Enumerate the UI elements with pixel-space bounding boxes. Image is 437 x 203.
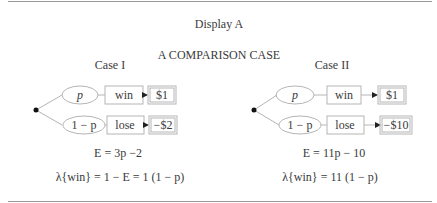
case-1-outcome-lose: lose	[115, 118, 134, 132]
case-2-outcome-win: win	[335, 88, 353, 102]
case-1-outcome-win: win	[115, 88, 133, 102]
case-2-payoff-lose: −$10	[384, 118, 409, 132]
case-1-prob-lose: 1 − p	[72, 118, 97, 132]
case-1-prob-win: p	[77, 88, 83, 102]
case-2-payoff-win: $1	[386, 88, 398, 102]
case-2-outcome-lose: lose	[335, 118, 354, 132]
case-2-expectation: E = 11p − 10	[303, 146, 365, 160]
case-1-root-node	[34, 108, 39, 113]
case-1-payoff-win: $1	[156, 88, 168, 102]
case-2-prob-lose: 1 − p	[288, 118, 313, 132]
case-1-expectation: E = 3p −2	[94, 146, 142, 160]
case-2-root-node	[252, 108, 257, 113]
case-1-payoff-lose: −$2	[154, 118, 173, 132]
case-1-lambda: λ{win} = 1 − E = 1 (1 − p)	[56, 170, 185, 184]
case-2-lambda: λ{win} = 11 (1 − p)	[282, 170, 377, 184]
case-2-prob-win: p	[292, 88, 298, 102]
